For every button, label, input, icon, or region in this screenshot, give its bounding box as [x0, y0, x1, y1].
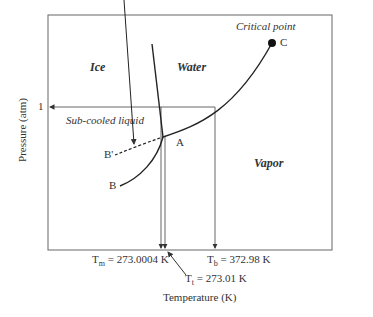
x-axis-label: Temperature (K) [163, 291, 236, 303]
region-water-label: Water [177, 60, 206, 75]
y-tick-1: 1 [38, 100, 44, 112]
subcooled-curve [115, 137, 163, 155]
y-axis-label: Pressure (atm) [16, 98, 28, 162]
point-b-label: B [109, 179, 116, 191]
critical-point-marker [268, 39, 276, 47]
point-b-prime-label: B' [104, 148, 113, 160]
region-ice-label: Ice [90, 60, 105, 75]
vaporization-curve [163, 43, 272, 137]
plot-frame [48, 15, 332, 250]
tm-label: Tm = 273.0004 K [92, 253, 169, 268]
point-c-label: C [280, 36, 287, 48]
tb-label: Tb = 372.98 K [207, 253, 270, 268]
critical-point-label: Critical point [236, 20, 296, 32]
phase-diagram-canvas [0, 0, 373, 317]
subcooled-label: Sub-cooled liquid [66, 114, 144, 126]
melting-curve [152, 44, 163, 137]
sublimation-curve [120, 137, 163, 186]
tt-label: Tt = 273.01 K [185, 272, 247, 287]
region-vapor-label: Vapor [254, 156, 283, 171]
point-a-label: A [176, 136, 184, 148]
tt-pointer [168, 252, 186, 275]
